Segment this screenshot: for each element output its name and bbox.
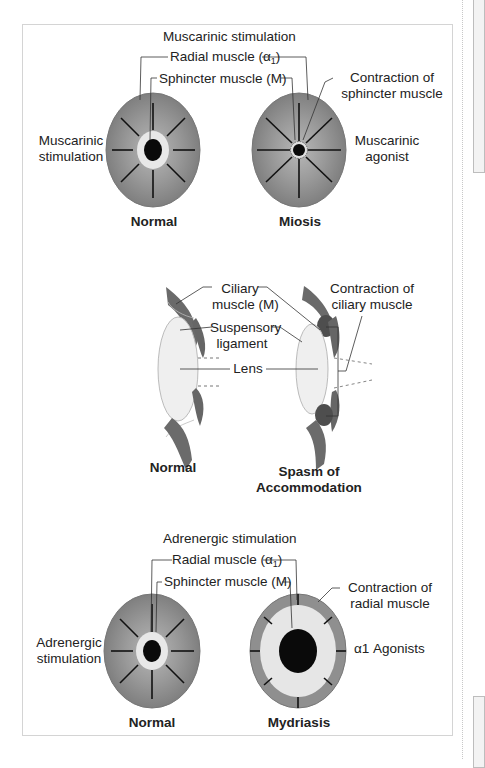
alpha1-agonists-label: α1 Agonists: [354, 641, 425, 657]
caption-normal-bottom: Normal: [126, 715, 178, 731]
lens-spasm: [296, 286, 372, 470]
ciliary-muscle-label: Ciliary muscle (M): [212, 281, 268, 313]
sphincter-muscle-label-bottom: Sphincter muscle (M): [164, 574, 292, 590]
caption-spasm-of-accommodation: Spasm of Accommodation: [254, 464, 364, 496]
eye-normal-adrenergic: [104, 594, 200, 708]
bottom-panel-title: Adrenergic stimulation: [163, 531, 297, 547]
muscarinic-agonist-label: Muscarinic agonist: [352, 133, 422, 165]
adrenergic-stimulation-side-label: Adrenergic stimulation: [32, 635, 106, 667]
caption-mydriasis: Mydriasis: [264, 715, 334, 731]
lens-label: Lens: [230, 361, 266, 377]
contraction-ciliary-callout: Contraction of ciliary muscle: [322, 281, 422, 313]
sphincter-muscle-label-top: Sphincter muscle (M): [159, 71, 287, 87]
suspensory-ligament-label: Suspensory ligament: [210, 320, 274, 352]
eye-miosis: [252, 93, 346, 207]
contraction-sphincter-callout: Contraction of sphincter muscle: [337, 70, 447, 102]
caption-normal-middle: Normal: [146, 460, 200, 476]
muscarinic-stimulation-side-label: Muscarinic stimulation: [36, 133, 106, 165]
top-panel-title: Muscarinic stimulation: [163, 29, 296, 45]
caption-normal-top: Normal: [128, 214, 180, 230]
contraction-radial-callout: Contraction of radial muscle: [340, 580, 440, 612]
eye-mydriasis: [250, 594, 346, 708]
radial-muscle-label-top: Radial muscle (α1): [170, 49, 280, 69]
caption-miosis: Miosis: [274, 214, 326, 230]
radial-muscle-label-bottom: Radial muscle (α1): [172, 552, 282, 572]
eye-normal-muscarinic: [106, 93, 200, 207]
lens-normal: [158, 287, 220, 470]
